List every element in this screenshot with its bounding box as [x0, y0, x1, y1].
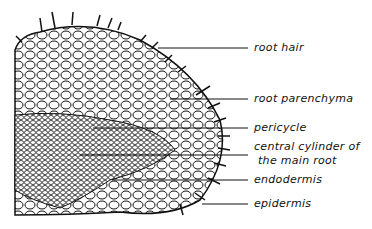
root-cross-section-diagram — [0, 0, 372, 229]
label-root-hair: root hair — [254, 42, 304, 54]
label-central-cylinder-line2: the main root — [258, 155, 337, 167]
label-root-parenchyma: root parenchyma — [254, 93, 353, 105]
label-central-cylinder: central cylinder of — [254, 141, 360, 153]
label-pericycle: pericycle — [254, 122, 306, 134]
label-epidermis: epidermis — [254, 198, 311, 210]
label-endodermis: endodermis — [254, 174, 322, 186]
